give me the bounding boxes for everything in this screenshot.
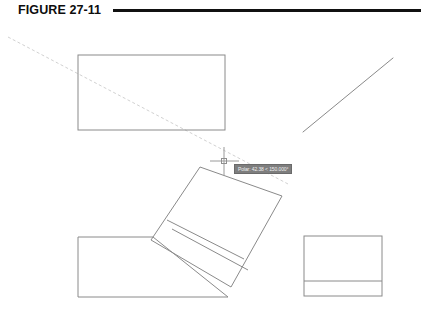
polar-tracking-line [8,37,290,185]
upper-rectangle[interactable] [78,55,225,130]
figure-rule [113,9,421,12]
right-diagonal-line[interactable] [303,58,393,132]
tilted-rectangle-outline[interactable] [151,167,282,287]
figure-container: FIGURE 27-11 [0,0,435,318]
figure-header: FIGURE 27-11 [0,0,435,26]
polar-tracking-tooltip-text: Polar: 42.38 < 150.000° [238,165,288,173]
cad-drawing-area[interactable] [0,26,435,318]
lower-right-rectangle[interactable] [304,236,382,296]
figure-label: FIGURE 27-11 [18,3,101,17]
tilted-rectangle-divider-upper [167,220,244,259]
lower-left-rectangle[interactable] [78,237,228,297]
tilted-rectangle-divider-lower [172,229,248,270]
cad-geometry-svg [0,26,435,318]
polar-tracking-tooltip: Polar: 42.38 < 150.000° [234,164,292,174]
